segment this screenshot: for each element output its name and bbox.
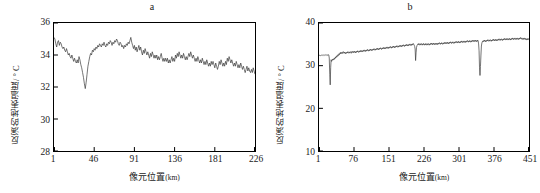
y-tick-label: 20 xyxy=(306,104,316,114)
panel-a-line-chart xyxy=(54,23,255,151)
panel-a-series-line xyxy=(54,37,255,88)
chart-panel-a: a 反演的地表温度/ ° C 2830323436 14691136181226… xyxy=(0,0,268,193)
y-tick-label: 40 xyxy=(306,17,316,27)
x-tick-label: 301 xyxy=(452,154,466,164)
x-tick-label: 46 xyxy=(89,154,99,164)
panel-a-x-axis-label-unit: (km) xyxy=(165,173,180,182)
panel-a-x-tick-labels: 14691136181226 xyxy=(53,154,256,168)
panel-b-x-axis-label-unit: (km) xyxy=(435,173,450,182)
x-tick-label: 136 xyxy=(168,154,182,164)
panel-a-plot-area xyxy=(53,22,256,152)
panel-b-x-axis-label: 像元位置(km) xyxy=(318,170,530,183)
x-tick-label: 226 xyxy=(417,154,431,164)
panel-b-ytick-marks xyxy=(319,23,323,151)
x-tick-label: 1 xyxy=(51,154,56,164)
panel-b-xtick-marks xyxy=(319,147,528,151)
panel-b-series-line xyxy=(319,38,529,85)
y-tick-label: 28 xyxy=(41,147,51,157)
panel-a-x-axis-label-main: 像元位置 xyxy=(129,172,165,182)
x-tick-label: 181 xyxy=(208,154,222,164)
panel-a-xtick-marks xyxy=(54,147,254,151)
x-tick-label: 151 xyxy=(382,154,396,164)
y-tick-label: 30 xyxy=(306,60,316,70)
y-tick-label: 10 xyxy=(306,147,316,157)
figure-root: a 反演的地表温度/ ° C 2830323436 14691136181226… xyxy=(0,0,540,193)
y-tick-label: 32 xyxy=(41,82,51,92)
x-tick-label: 376 xyxy=(488,154,502,164)
x-tick-label: 91 xyxy=(129,154,139,164)
panel-a-y-axis-label: 反演的地表温度/ ° C xyxy=(12,24,21,144)
chart-panel-b: b 反演的地表温度/ ° C 10203040 1761512263013764… xyxy=(268,0,540,193)
panel-b-line-chart xyxy=(319,23,529,151)
panel-b-plot-area xyxy=(318,22,530,152)
panel-a-x-axis-label: 像元位置(km) xyxy=(53,170,256,183)
panel-b-title: b xyxy=(268,1,540,12)
x-tick-label: 76 xyxy=(349,154,359,164)
y-tick-label: 36 xyxy=(41,17,51,27)
x-tick-label: 226 xyxy=(249,154,263,164)
x-tick-label: 1 xyxy=(316,154,321,164)
y-tick-label: 30 xyxy=(41,115,51,125)
panel-b-x-axis-label-main: 像元位置 xyxy=(399,172,435,182)
panel-b-y-axis-label: 反演的地表温度/ ° C xyxy=(277,24,286,144)
panel-a-title: a xyxy=(0,1,286,12)
panel-b-y-tick-labels: 10203040 xyxy=(291,22,315,152)
panel-a-y-tick-labels: 2830323436 xyxy=(26,22,50,152)
x-tick-label: 451 xyxy=(523,154,537,164)
panel-b-x-tick-labels: 176151226301376451 xyxy=(318,154,530,168)
y-tick-label: 34 xyxy=(41,50,51,60)
